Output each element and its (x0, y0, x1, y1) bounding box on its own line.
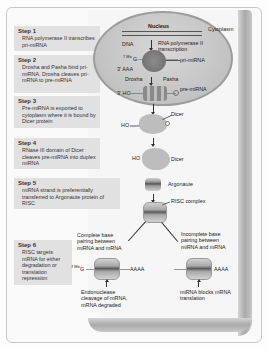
step-3-title: Step 3 (18, 98, 97, 105)
arrow-endonuclease (106, 281, 107, 287)
left-cap-g: G (80, 266, 84, 272)
arrow-transcription (151, 40, 152, 49)
step-2-box: Step 2 Drosha and Pasha bind pri-miRNA, … (14, 55, 100, 93)
step-5-title: Step 5 (18, 180, 117, 187)
pri-mirna-label: pri-miRNA (180, 57, 205, 63)
arrow-risc (153, 194, 154, 201)
aaaa-left-label: AAAA (130, 266, 144, 272)
step-2-title: Step 2 (18, 57, 97, 64)
dicer-protein-1 (139, 114, 167, 134)
step-6-box: Step 6 RISC targets mRNA for either degr… (14, 240, 72, 285)
argonaute-protein (145, 178, 161, 191)
step-1-text: RNA polymerase II transcribes pri-miRNA (18, 35, 97, 48)
arrow-cleavage (151, 77, 152, 84)
step-4-box: Step 4 RNase III domain of Dicer cleaves… (14, 138, 100, 169)
transcription-label: RNA polymerase II transcription (158, 40, 216, 53)
cap-superscript: 7 Me (123, 54, 132, 60)
step-1-title: Step 1 (18, 28, 97, 35)
cap-g: G (133, 56, 137, 62)
risc-complex-label: RISC complex (171, 198, 205, 204)
dna-label: DNA (122, 41, 133, 47)
endonuclease-label: Endonuclease cleavage of mRNA, mRNA degr… (81, 289, 137, 308)
arrow-export (153, 104, 154, 113)
risc-bound-incomplete (186, 258, 212, 280)
step-2-text: Drosha and Pasha bind pri-miRNA, Drosha … (18, 64, 97, 84)
risc-bound-complete (94, 258, 120, 280)
step-4-title: Step 4 (18, 140, 97, 147)
step-3-text: Pre-miRNA is exported to cytoplasm where… (18, 105, 97, 125)
pre-mirna-hairpin (143, 86, 167, 101)
dicer-label-1: Dicer (171, 111, 184, 117)
three-prime-aaa-label: 3' AAA (117, 66, 133, 72)
pri-mirna-pointer (166, 60, 180, 61)
step-6-title: Step 6 (18, 242, 69, 249)
left-cap-superscript: 7 Me (71, 264, 80, 270)
cell-membrane (238, 10, 252, 336)
arrow-blocks (198, 281, 199, 287)
cell-membrane-bottom (88, 318, 252, 332)
pre-mirna-loop (173, 90, 179, 96)
step-1-box: Step 1 RNA polymerase II transcribes pri… (14, 26, 100, 51)
incomplete-pairing-label: Incomplete base pairing between miRNA an… (181, 231, 236, 250)
dicer-label-2: Dicer (171, 156, 184, 162)
aaaa-right-label: AAAA (214, 266, 228, 272)
ho-label-2: HO (132, 155, 140, 161)
step-5-text: miRNA strand is preferentially transferr… (18, 187, 117, 207)
arrow-dicer-cleave (153, 138, 154, 145)
ho-label-1: HO (121, 122, 129, 128)
pasha-label: Pasha (163, 76, 178, 82)
three-prime-ho-label: 3' HO (117, 90, 131, 96)
dicer-loop (165, 121, 170, 126)
risc-complex (143, 202, 167, 223)
step-4-text: RNase III domain of Dicer cleaves pre-mi… (18, 147, 97, 167)
step-3-box: Step 3 Pre-miRNA is exported to cytoplas… (14, 96, 100, 128)
pre-mirna-label: pre-miRNA (180, 86, 207, 92)
nucleus-label: Nucleus (148, 23, 169, 29)
drosha-label: Drosha (125, 76, 142, 82)
dna-strand (122, 31, 202, 36)
argonaute-label: Argonaute (168, 181, 193, 187)
dicer-protein-2 (142, 148, 170, 170)
cytoplasm-label: Cytoplasm (208, 26, 233, 32)
step-5-box: Step 5 miRNA strand is preferentially tr… (14, 178, 120, 209)
complete-pairing-label: Complete base pairing between miRNA and … (77, 232, 127, 251)
blocks-translation-label: miRNA blocks mRNA translation (180, 289, 238, 302)
step-6-text: RISC targets mRNA for either degradation… (18, 249, 69, 282)
drosha-pasha-complex (142, 50, 166, 72)
